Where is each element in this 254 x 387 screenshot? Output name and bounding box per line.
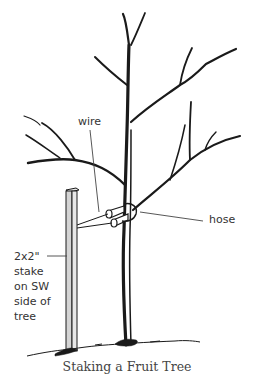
trunk (123, 45, 129, 345)
stake-label-line-1: 2x2" (14, 249, 51, 264)
stake-label-line-4: side of (14, 294, 51, 309)
stake-label-line-2: stake (14, 264, 51, 279)
wire-leader-line (90, 130, 99, 212)
stake (66, 188, 79, 351)
hose-leader-line (140, 212, 203, 221)
figure-caption: Staking a Fruit Tree (0, 359, 254, 374)
branch-top-right (131, 13, 145, 45)
branch-lower-left (28, 159, 125, 185)
branch-upper-left (95, 57, 127, 85)
tree-staking-drawing (0, 0, 254, 387)
stake-label-line-3: on SW (14, 279, 51, 294)
branch-lower-right (133, 136, 240, 210)
stake-label: 2x2" stake on SW side of tree (14, 249, 51, 324)
wire-label: wire (78, 115, 101, 128)
branch-right (131, 49, 236, 122)
hose-label: hose (209, 213, 235, 226)
stake-label-line-5: tree (14, 309, 51, 324)
illustration (0, 0, 254, 387)
branch-top-left (123, 14, 129, 45)
ground (27, 339, 200, 356)
